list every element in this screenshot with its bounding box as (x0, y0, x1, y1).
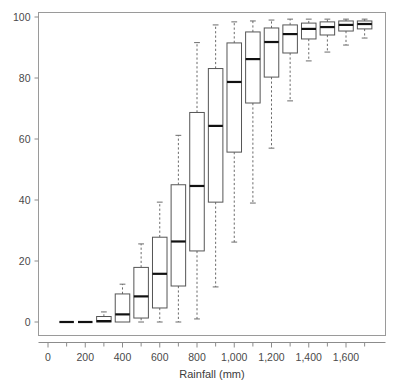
x-tick-label-1200: 1,200 (258, 351, 284, 363)
boxplot-figure: 02040608010002004006008001,0001,2001,400… (0, 0, 396, 383)
boxplot-box-700 (171, 135, 186, 322)
y-tick-label-40: 40 (19, 194, 31, 206)
boxplot-box-500 (134, 244, 149, 322)
boxplot-box-1700 (357, 19, 372, 38)
x-tick-label-1600: 1,600 (333, 351, 359, 363)
box-body-500 (134, 267, 149, 318)
x-tick-label-400: 400 (114, 351, 132, 363)
boxplot-box-1000 (227, 22, 242, 242)
box-body-1300 (283, 25, 298, 53)
boxplot-box-1500 (320, 19, 335, 52)
boxplot-box-600 (152, 202, 167, 322)
box-body-1200 (264, 28, 279, 77)
box-body-1500 (320, 22, 335, 35)
box-body-1400 (301, 23, 316, 39)
box-body-1000 (227, 43, 242, 152)
x-tick-label-200: 200 (76, 351, 94, 363)
boxplot-box-900 (208, 25, 223, 287)
x-axis-title: Rainfall (mm) (179, 368, 244, 380)
x-tick-label-800: 800 (188, 351, 206, 363)
x-tick-label-1000: 1,000 (221, 351, 247, 363)
boxplot-box-300 (97, 312, 112, 322)
y-tick-label-80: 80 (19, 72, 31, 84)
box-body-900 (208, 69, 223, 203)
x-tick-label-600: 600 (151, 351, 169, 363)
box-body-600 (152, 237, 167, 308)
y-tick-label-0: 0 (25, 316, 31, 328)
x-tick-label-0: 0 (45, 351, 51, 363)
boxplot-box-1200 (264, 20, 279, 148)
boxplot-box-1100 (246, 21, 261, 203)
y-tick-label-60: 60 (19, 133, 31, 145)
box-body-1100 (246, 32, 261, 103)
boxplot-chart-svg: 02040608010002004006008001,0001,2001,400… (0, 0, 396, 383)
boxplot-box-1400 (301, 19, 316, 61)
boxplot-box-1600 (339, 19, 354, 45)
box-body-400 (115, 294, 130, 322)
x-tick-label-1400: 1,400 (296, 351, 322, 363)
boxplot-box-400 (115, 284, 130, 322)
box-body-700 (171, 185, 186, 286)
y-tick-label-100: 100 (13, 11, 31, 23)
boxplot-box-800 (190, 43, 205, 319)
boxplot-box-1300 (283, 19, 298, 101)
box-body-800 (190, 112, 205, 250)
y-tick-label-20: 20 (19, 255, 31, 267)
